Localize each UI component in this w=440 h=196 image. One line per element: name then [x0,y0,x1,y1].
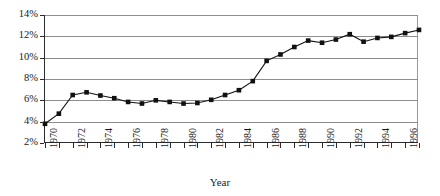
data-point-1984 [237,88,242,93]
y-tick-label-10: 10% [6,51,38,62]
x-tick-label-1974: 1974 [103,128,114,148]
y-tick-mark [40,143,44,144]
data-point-1975 [112,96,117,101]
data-point-1988 [292,45,297,50]
data-point-1979 [167,100,172,105]
x-tick-mark-1984 [239,143,240,148]
data-point-1994 [375,36,380,41]
x-tick-label-1990: 1990 [325,128,336,148]
x-tick-label-1994: 1994 [380,128,391,148]
y-tick-label-2: 2% [6,136,38,147]
x-tick-mark-1991 [336,143,337,148]
x-tick-label-1992: 1992 [353,128,364,148]
y-tick-label-8: 8% [6,72,38,83]
x-tick-label-1986: 1986 [270,128,281,148]
data-point-1976 [126,100,131,105]
x-tick-mark-1986 [267,143,268,148]
data-point-1985 [250,79,255,84]
x-tick-mark-1983 [225,143,226,148]
line-chart: 14%12%10%8%6%4%2% 1970197219741976197819… [0,0,440,196]
x-tick-label-1972: 1972 [76,128,87,148]
data-point-1980 [181,101,186,106]
x-tick-label-1996: 1996 [408,128,419,148]
data-point-1977 [140,101,145,106]
data-point-1982 [209,98,214,103]
x-tick-mark-1982 [211,143,212,148]
x-tick-mark-1975 [114,143,115,148]
x-tick-mark-1994 [377,143,378,148]
data-point-1973 [84,90,89,95]
x-tick-mark-1997 [419,143,420,148]
x-tick-mark-1988 [294,143,295,148]
y-tick-label-14: 14% [6,8,38,19]
data-point-1991 [334,37,339,42]
x-tick-mark-1992 [350,143,351,148]
x-tick-label-1978: 1978 [159,128,170,148]
plot-area [44,15,418,143]
x-tick-mark-1989 [308,143,309,148]
x-tick-mark-1995 [391,143,392,148]
data-point-1971 [57,111,62,116]
data-point-1974 [98,93,103,98]
x-tick-label-1976: 1976 [131,128,142,148]
data-point-1990 [320,40,325,45]
x-tick-mark-1980 [184,143,185,148]
data-point-1983 [223,93,228,98]
y-tick-mark [40,79,44,80]
data-point-1996 [403,31,408,36]
y-tick-label-12: 12% [6,29,38,40]
data-point-1993 [361,39,366,44]
y-tick-mark [40,122,44,123]
data-point-1987 [278,52,283,57]
y-tick-label-6: 6% [6,93,38,104]
x-tick-mark-1990 [322,143,323,148]
y-tick-label-4: 4% [6,115,38,126]
data-point-1995 [389,35,394,40]
x-tick-mark-1972 [73,143,74,148]
series-line [45,30,419,124]
x-tick-mark-1996 [405,143,406,148]
y-tick-mark [40,58,44,59]
x-axis-title: Year [0,176,440,188]
x-tick-mark-1977 [142,143,143,148]
x-tick-label-1988: 1988 [297,128,308,148]
y-tick-mark [40,15,44,16]
data-point-1981 [195,101,200,106]
data-series [45,15,419,143]
x-tick-mark-1974 [100,143,101,148]
x-tick-label-1984: 1984 [242,128,253,148]
x-tick-label-1982: 1982 [214,128,225,148]
y-tick-mark [40,36,44,37]
y-tick-mark [40,100,44,101]
data-point-1972 [70,93,75,98]
x-tick-mark-1976 [128,143,129,148]
data-point-1978 [154,98,159,103]
data-point-1989 [306,38,311,43]
x-tick-label-1980: 1980 [187,128,198,148]
data-point-1992 [347,32,352,37]
x-tick-mark-1978 [156,143,157,148]
x-tick-mark-1970 [45,143,46,148]
x-tick-label-1970: 1970 [48,128,59,148]
data-point-1997 [417,28,422,33]
data-point-1986 [264,59,269,64]
